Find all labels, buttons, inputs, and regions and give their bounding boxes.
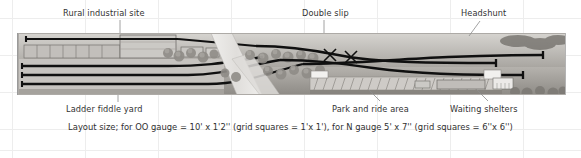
track-plan-image (17, 33, 566, 95)
waiting-shelter-main (437, 80, 485, 89)
label-waiting-shelters: Waiting shelters (450, 104, 518, 114)
industrial-shed-row (24, 45, 120, 58)
waiting-shelter-small (415, 81, 430, 88)
waiting-shelter-canopy (493, 78, 513, 89)
park-and-ride-kiosk (484, 70, 501, 79)
park-and-ride-entrance-hut (311, 71, 328, 78)
layout-size-caption: Layout size; for OO gauge = 10' x 1'2'' … (0, 121, 581, 133)
label-rural-industrial-site: Rural industrial site (63, 8, 145, 18)
label-park-and-ride-area: Park and ride area (332, 104, 409, 114)
label-headshunt: Headshunt (461, 8, 506, 18)
label-ladder-fiddle-yard: Ladder fiddle yard (66, 104, 143, 114)
label-double-slip: Double slip (302, 8, 349, 18)
